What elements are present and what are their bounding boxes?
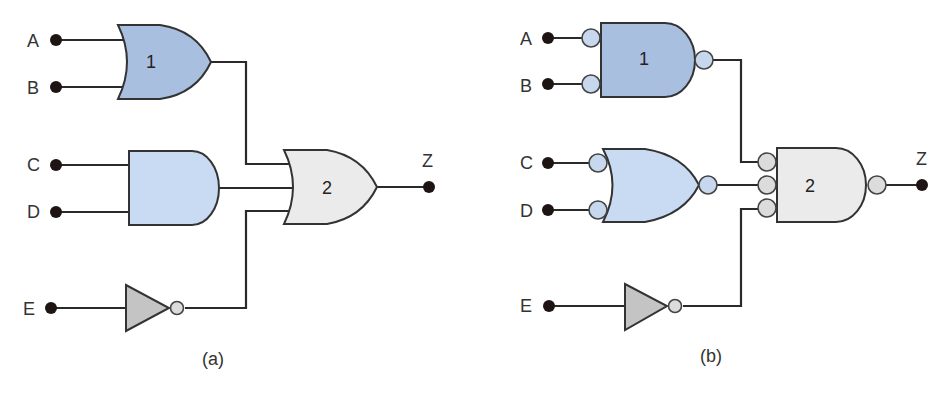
terminal-z bbox=[916, 179, 928, 191]
input-bubble-c bbox=[589, 154, 607, 172]
gate-1-label: 1 bbox=[639, 49, 649, 69]
input-label-b: B bbox=[520, 76, 532, 96]
input-bubble-d bbox=[589, 201, 607, 219]
terminal-b bbox=[50, 81, 62, 93]
wire-gate1-to-gate2 bbox=[713, 60, 760, 162]
input-label-e: E bbox=[23, 299, 35, 319]
terminal-z bbox=[423, 181, 435, 193]
gate-1-label: 1 bbox=[146, 52, 156, 72]
terminal-a bbox=[542, 32, 554, 44]
inverter-gate-e bbox=[126, 285, 169, 331]
terminal-c bbox=[50, 159, 62, 171]
caption-b: (b) bbox=[700, 346, 722, 366]
output-bubble-gate-1 bbox=[695, 51, 713, 69]
diagram-a: A B C D E 1 2 Z (a) bbox=[23, 25, 435, 369]
output-label-z: Z bbox=[422, 151, 433, 171]
input-bubble-gate2-1 bbox=[758, 153, 776, 171]
terminal-e bbox=[45, 302, 57, 314]
terminal-e bbox=[543, 300, 555, 312]
output-bubble-gate-2 bbox=[868, 176, 886, 194]
wire-inverter-to-gate2 bbox=[683, 209, 760, 306]
gate-2-label: 2 bbox=[805, 176, 815, 196]
input-label-d: D bbox=[520, 201, 533, 221]
or-gate-cd bbox=[603, 149, 699, 222]
inverter-bubble bbox=[171, 302, 184, 315]
input-bubble-b bbox=[582, 75, 600, 93]
and-gate-2 bbox=[777, 148, 866, 222]
wire-inverter-to-gate2 bbox=[185, 211, 290, 308]
output-bubble-or-cd bbox=[699, 176, 717, 194]
terminal-c bbox=[542, 157, 554, 169]
input-label-b: B bbox=[27, 78, 39, 98]
input-label-c: C bbox=[520, 153, 533, 173]
wire-gate1-to-gate2 bbox=[211, 62, 290, 164]
output-label-z: Z bbox=[916, 149, 927, 169]
terminal-b bbox=[542, 78, 554, 90]
gate-2-label: 2 bbox=[322, 178, 332, 198]
or-gate-1 bbox=[118, 25, 211, 99]
input-label-c: C bbox=[27, 155, 40, 175]
input-label-a: A bbox=[520, 29, 532, 49]
diagram-b: A B C D E 1 bbox=[520, 23, 928, 366]
inverter-gate-e bbox=[625, 284, 667, 330]
input-label-e: E bbox=[520, 296, 532, 316]
input-label-d: D bbox=[27, 202, 40, 222]
caption-a: (a) bbox=[202, 349, 224, 369]
input-label-a: A bbox=[27, 31, 39, 51]
input-bubble-gate2-3 bbox=[758, 199, 776, 217]
terminal-d bbox=[50, 206, 62, 218]
and-gate-cd bbox=[129, 151, 219, 225]
input-bubble-a bbox=[582, 29, 600, 47]
terminal-a bbox=[50, 34, 62, 46]
inverter-bubble bbox=[669, 300, 682, 313]
logic-diagrams: A B C D E 1 2 Z (a) bbox=[0, 0, 949, 400]
input-bubble-gate2-2 bbox=[758, 176, 776, 194]
terminal-d bbox=[542, 204, 554, 216]
